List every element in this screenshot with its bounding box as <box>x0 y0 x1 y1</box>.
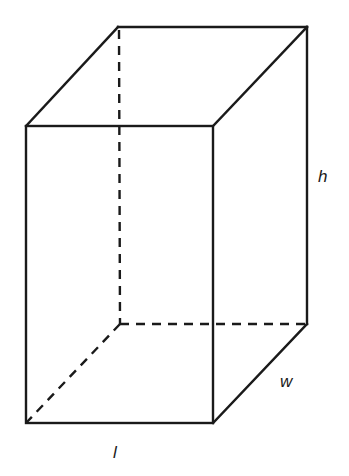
prism-diagram: h w l <box>0 0 349 476</box>
hidden-back-left-edge <box>119 30 120 324</box>
height-label: h <box>318 167 327 186</box>
hidden-bottom-left-edge <box>26 324 120 423</box>
width-label: w <box>280 372 294 391</box>
top-left-edge <box>26 27 118 126</box>
length-label: l <box>113 443 118 462</box>
bottom-right-edge <box>213 324 307 423</box>
prism-figure: h w l <box>0 0 349 476</box>
top-right-edge <box>213 27 307 126</box>
